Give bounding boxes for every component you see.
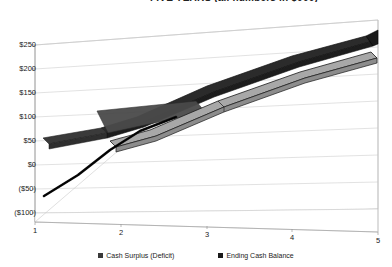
chart-legend: Cash Surplus (Deficit) Ending Cash Balan… bbox=[0, 249, 392, 261]
legend-item-cash-surplus[interactable]: Cash Surplus (Deficit) bbox=[98, 252, 174, 259]
y-tick-label: $250 bbox=[2, 41, 36, 49]
y-axis-labels: $250 $200 $150 $100 $50 $0 ($50) ($100) bbox=[0, 0, 36, 267]
plot-area bbox=[0, 0, 392, 267]
x-tick-label: 3 bbox=[205, 230, 209, 239]
legend-swatch-icon bbox=[218, 253, 223, 258]
y-tick-label: $150 bbox=[2, 89, 36, 97]
y-tick-label: ($100) bbox=[2, 209, 36, 217]
x-tick-label: 2 bbox=[119, 228, 123, 237]
chart-3d-cash-flow: FIVE YEARS (all numbers in $000) bbox=[0, 0, 392, 267]
x-tick-label: 5 bbox=[376, 236, 380, 245]
legend-swatch-icon bbox=[98, 253, 103, 258]
y-tick-label: ($50) bbox=[2, 185, 36, 193]
legend-item-ending-cash-balance[interactable]: Ending Cash Balance bbox=[218, 252, 293, 259]
y-tick-label: $200 bbox=[2, 65, 36, 73]
y-tick-label: $0 bbox=[2, 161, 36, 169]
legend-label: Cash Surplus (Deficit) bbox=[106, 252, 174, 259]
y-tick-label: $100 bbox=[2, 113, 36, 121]
legend-label: Ending Cash Balance bbox=[226, 252, 293, 259]
x-tick-label: 1 bbox=[33, 226, 37, 235]
y-tick-label: $50 bbox=[2, 137, 36, 145]
x-tick-label: 4 bbox=[290, 233, 294, 242]
